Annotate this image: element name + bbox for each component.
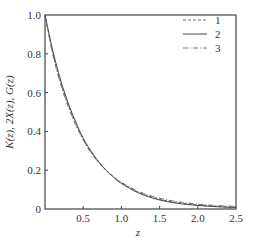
y-tick-label: 0.8 xyxy=(27,48,41,60)
series-1-line xyxy=(45,15,236,207)
y-axis-title: K(z), 2X(z), G(z) xyxy=(3,75,16,150)
y-tick-label: 0.6 xyxy=(27,87,41,99)
legend-label-2: 2 xyxy=(215,28,221,40)
legend: 1 2 3 xyxy=(183,14,221,54)
x-tick-label: 2.5 xyxy=(229,212,243,224)
y-tick-label: 0.4 xyxy=(27,125,41,137)
x-tick-label: 1.0 xyxy=(115,212,129,224)
y-tick-label: 1.0 xyxy=(27,9,41,21)
series-3-line xyxy=(45,15,236,207)
series-2-line xyxy=(45,15,236,207)
x-axis-title: z xyxy=(135,226,141,238)
plot-frame xyxy=(45,15,236,209)
legend-label-1: 1 xyxy=(215,14,221,26)
series-lines xyxy=(45,15,236,207)
x-tick-label: 0.5 xyxy=(76,212,90,224)
line-chart: 0 0.2 0.4 0.6 0.8 1.0 0.5 1.0 1.5 2.0 2.… xyxy=(0,0,253,247)
x-tick-label: 2.0 xyxy=(191,212,205,224)
y-tick-label: 0 xyxy=(36,203,42,215)
y-tick-label: 0.2 xyxy=(27,164,41,176)
legend-label-3: 3 xyxy=(215,42,221,54)
x-tick-label: 1.5 xyxy=(153,212,167,224)
